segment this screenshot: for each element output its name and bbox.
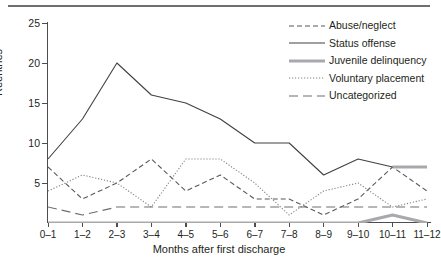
- x-axis-tick-label: 1–2: [74, 229, 91, 240]
- x-axis-tick-label: 2–3: [109, 229, 126, 240]
- series-line-uncategorized: [48, 207, 427, 215]
- x-axis-tick-label: 6–7: [246, 229, 263, 240]
- legend-item-label: Uncategorized: [329, 90, 397, 101]
- dotted-line-icon: [288, 72, 326, 84]
- solid-line-icon: [288, 37, 326, 49]
- legend-item-abuse-neglect[interactable]: Abuse/neglect: [288, 17, 438, 35]
- legend-item-label: Status offense: [329, 38, 396, 49]
- legend-item-status-offense[interactable]: Status offense: [288, 35, 438, 53]
- x-axis-tick-label: 5–6: [212, 229, 229, 240]
- y-axis-title: Reentries: [0, 49, 4, 96]
- thick-line-icon: [288, 55, 326, 67]
- legend-item-label: Abuse/neglect: [329, 20, 396, 31]
- x-axis-tick-label: 8–9: [315, 229, 332, 240]
- y-axis-tick-label: 20: [16, 58, 40, 68]
- y-axis-tick-label: 15: [16, 98, 40, 108]
- y-axis-tick-label: 5: [16, 178, 40, 188]
- legend-item-voluntary-placement[interactable]: Voluntary placement: [288, 70, 438, 88]
- dashed-line-icon: [288, 20, 326, 32]
- x-axis-tick-label: 4–5: [177, 229, 194, 240]
- legend-item-label: Juvenile delinquency: [329, 55, 426, 66]
- y-axis-tick: [42, 23, 47, 24]
- y-axis-tick: [42, 143, 47, 144]
- legend-item-juvenile-delinquency[interactable]: Juvenile delinquency: [288, 52, 438, 70]
- long-dashed-line-icon: [288, 90, 326, 102]
- x-axis-title: Months after first discharge: [0, 243, 438, 255]
- top-divider-rule: [8, 5, 430, 7]
- y-axis-tick: [42, 103, 47, 104]
- x-axis-tick-label: 7–8: [281, 229, 298, 240]
- y-axis-tick-label: 10: [16, 138, 40, 148]
- series-line-juvenile-delinquency: [48, 215, 427, 223]
- y-axis-tick: [42, 183, 47, 184]
- y-axis-tick: [42, 63, 47, 64]
- y-axis-tick-label: 25: [16, 18, 40, 28]
- x-axis-tick-label: 9–10: [347, 229, 369, 240]
- chart-legend: Abuse/neglectStatus offenseJuvenile deli…: [288, 17, 438, 105]
- x-axis-tick-label: 3–4: [143, 229, 160, 240]
- legend-item-uncategorized[interactable]: Uncategorized: [288, 87, 438, 105]
- x-axis-tick-label: 11–12: [413, 229, 440, 240]
- legend-item-label: Voluntary placement: [329, 73, 424, 84]
- x-axis-tick-label: 0–1: [40, 229, 57, 240]
- x-axis-tick-label: 10–11: [379, 229, 406, 240]
